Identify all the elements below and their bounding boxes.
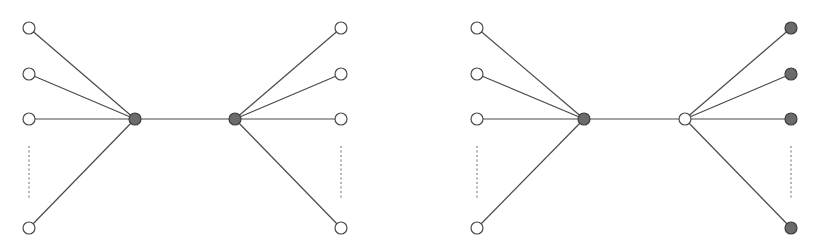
- left-leaf-node-3: [471, 113, 483, 125]
- right-leaf-node-2: [785, 68, 797, 80]
- leaf-edge: [29, 74, 135, 119]
- left-leaf-node-3: [23, 113, 35, 125]
- hub-a-node: [129, 113, 141, 125]
- left-leaf-node-1: [23, 22, 35, 34]
- hub-b-node: [679, 113, 691, 125]
- leaf-edge: [685, 119, 791, 228]
- leaf-edge: [685, 74, 791, 119]
- right-leaf-node-4: [335, 222, 347, 234]
- right-leaf-node-1: [785, 22, 797, 34]
- right-leaf-node-4: [785, 222, 797, 234]
- hub-a-node: [578, 113, 590, 125]
- left-leaf-node-2: [23, 68, 35, 80]
- right-graph: [471, 22, 797, 234]
- leaf-edge: [477, 28, 584, 119]
- leaf-edge: [29, 119, 135, 228]
- left-leaf-node-2: [471, 68, 483, 80]
- right-leaf-node-1: [335, 22, 347, 34]
- double-star-graphs-diagram: [0, 0, 821, 252]
- left-graph: [23, 22, 347, 234]
- leaf-edge: [235, 74, 341, 119]
- nodes: [471, 22, 797, 234]
- edges: [29, 28, 341, 228]
- hub-b-node: [229, 113, 241, 125]
- nodes: [23, 22, 347, 234]
- left-leaf-node-4: [471, 222, 483, 234]
- edges: [477, 28, 791, 228]
- leaf-edge: [477, 74, 584, 119]
- leaf-edge: [29, 28, 135, 119]
- leaf-edge: [235, 119, 341, 228]
- left-leaf-node-1: [471, 22, 483, 34]
- leaf-edge: [685, 28, 791, 119]
- right-leaf-node-2: [335, 68, 347, 80]
- right-leaf-node-3: [335, 113, 347, 125]
- leaf-edge: [477, 119, 584, 228]
- right-leaf-node-3: [785, 113, 797, 125]
- leaf-edge: [235, 28, 341, 119]
- left-leaf-node-4: [23, 222, 35, 234]
